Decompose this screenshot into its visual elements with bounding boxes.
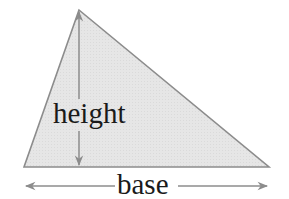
height-label: height (53, 97, 126, 129)
triangle-shape (24, 10, 269, 167)
base-label: base (117, 168, 169, 199)
triangle-diagram: height base (0, 0, 289, 199)
